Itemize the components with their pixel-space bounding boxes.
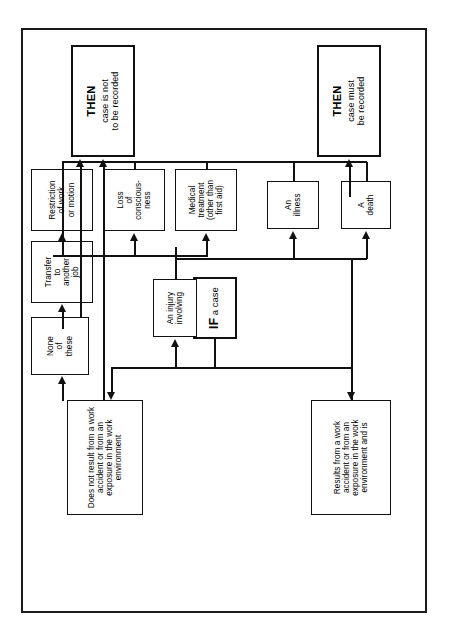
transfer-line3: another (62, 258, 71, 286)
connector-results-spine (175, 258, 367, 260)
node-an-injury-involving[interactable]: An injury involving (153, 279, 197, 337)
connector-bus-to-then-record (349, 163, 351, 197)
arrow-none-to-then-not (76, 159, 84, 167)
medical-line3: (other than (206, 180, 215, 220)
transfer-line2: to (53, 269, 62, 276)
connector-fan-medical-drop (175, 255, 207, 257)
connector-restriction-to-bus (62, 162, 64, 169)
flowchart-stage: IF a case Does not result from a work ac… (23, 30, 429, 615)
results-from-text: Results from a work accident or from an … (333, 419, 370, 496)
none-line2: of (55, 343, 64, 350)
diagram-frame: IF a case Does not result from a work ac… (21, 28, 427, 613)
arrow-to-illness (289, 231, 297, 239)
restriction-line1: Restriction (48, 180, 57, 219)
connector-fan-none-lead (62, 383, 64, 401)
if-label: IF (207, 318, 221, 329)
arrow-to-death (362, 231, 370, 239)
an-injury-line1: An injury (166, 292, 175, 324)
connector-none-out (80, 165, 82, 318)
connector-transfer-to-bus (62, 162, 64, 241)
node-then-case-not-recorded[interactable]: THEN case is not to be recorded (71, 45, 135, 157)
node-an-illness[interactable]: An illness (267, 181, 319, 229)
connector-spine-death-drop (351, 258, 367, 260)
loss-line3: conscious- (134, 180, 143, 220)
node-medical-treatment[interactable]: Medical treatment (other than first aid) (175, 169, 237, 231)
node-if-a-case[interactable]: IF a case (193, 277, 237, 339)
connector-death-to-bus (366, 162, 368, 181)
connector-fan-to-loss (134, 239, 136, 257)
medical-line1: Medical (188, 186, 197, 215)
node-does-not-result[interactable]: Does not result from a work accident or … (67, 400, 143, 515)
an-illness-line2: illness (293, 193, 302, 216)
connector-illness-to-bus (293, 162, 295, 181)
arrow-not-result-to-then (99, 159, 107, 167)
does-not-result-text: Does not result from a work accident or … (87, 407, 124, 508)
connector-injury-fan-spine (53, 255, 177, 257)
then-not-record-head: THEN (85, 72, 97, 131)
a-death-line1: A (357, 202, 366, 208)
connector-bus-lower (293, 161, 367, 163)
connector-spine-to-death (366, 237, 368, 259)
node-then-case-must-be-recorded[interactable]: THEN case must be recorded (317, 45, 381, 157)
arrow-to-medical (202, 233, 210, 241)
medical-line4: first aid) (215, 185, 224, 215)
arrow-to-then-record (345, 159, 353, 167)
medical-line2: treatment (197, 182, 206, 217)
then-not-record-line2: to be recorded (110, 72, 121, 131)
an-illness-line1: An (284, 200, 293, 210)
arrow-to-not-result (107, 392, 115, 400)
connector-spine-to-not-result (111, 368, 113, 392)
connector-loss-to-bus (134, 162, 136, 169)
arrow-to-loss (130, 233, 138, 241)
transfer-line4: job (71, 266, 80, 277)
then-not-record-line1: case is not (100, 72, 111, 131)
node-none-of-these[interactable]: None of these (31, 317, 89, 375)
node-loss-of-consciousness[interactable]: Loss of conscious- ness (103, 169, 165, 231)
connector-spine-injury-lead (175, 345, 177, 369)
connector-injury-out (175, 255, 177, 279)
connector-medical-to-bus (206, 162, 208, 169)
none-line3: these (65, 336, 74, 356)
connector-fan-transfer-lead (62, 311, 64, 329)
an-injury-line2: involving (175, 292, 184, 324)
connector-fan-to-restriction (62, 239, 64, 257)
then-record-head: THEN (331, 77, 343, 126)
connector-spine-to-illness (293, 237, 295, 259)
then-record-line1: case must (346, 77, 357, 126)
connector-fan-to-medical (206, 239, 208, 257)
then-record-line2: be recorded (356, 77, 367, 126)
connector-results-spine-base (351, 259, 353, 360)
none-line1: None (46, 336, 55, 356)
a-death-line2: death (366, 195, 375, 216)
loss-line2: of (125, 197, 134, 204)
loss-line4: ness (143, 191, 152, 209)
connector-not-result-to-then (103, 165, 105, 400)
node-results-from[interactable]: Results from a work accident or from an … (311, 400, 391, 515)
loss-line1: Loss (116, 191, 125, 209)
if-body: a case (209, 287, 220, 315)
connector-results-to-spine (351, 360, 353, 400)
connector-if-spine (111, 367, 351, 369)
transfer-line1: Transfer (44, 257, 53, 288)
restriction-line3: or motion (67, 183, 76, 218)
connector-if-to-spine (214, 338, 216, 369)
